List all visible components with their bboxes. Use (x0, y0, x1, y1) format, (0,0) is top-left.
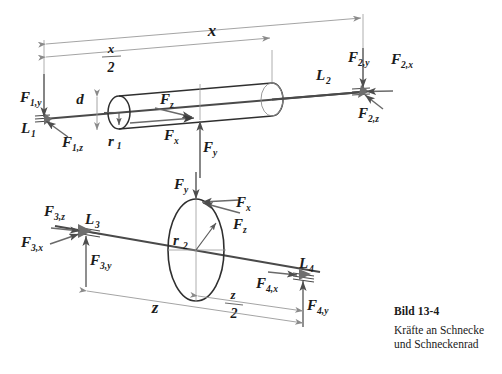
force-F3x: F 3,x (20, 234, 79, 253)
worm-assembly: x x 2 d r 1 (19, 14, 413, 178)
force-label-Fx-wheel: F (235, 194, 246, 210)
force-label-F2y: F (347, 49, 358, 65)
bearing-label-L3-sub: 3 (94, 220, 100, 230)
figure-caption-line2: und Schneckenrad (394, 338, 502, 352)
bearing-label-L1: L (20, 120, 30, 136)
dimension-label-x-total: x (207, 21, 217, 40)
dimension-label-x-half-denominator: 2 (107, 60, 115, 75)
force-label-F2z: F (357, 105, 368, 121)
force-label-F2x-sub: 2,x (400, 60, 413, 70)
dimension-x-half: x 2 (46, 38, 272, 82)
bearing-label-L4: L (298, 255, 308, 271)
force-label-F2x: F (390, 51, 401, 67)
force-label-F2z-sub: 2,z (367, 114, 379, 124)
dimension-label-z-half-numerator: z (229, 287, 236, 302)
force-Fx-worm: F x (130, 118, 194, 146)
bearing-label-L2: L (315, 67, 325, 83)
force-label-Fx-worm: F (163, 127, 174, 143)
radius-label-r1-sub: 1 (117, 141, 122, 151)
force-label-F4x: F (255, 275, 266, 291)
dimension-label-z-total: z (151, 298, 159, 317)
force-Fz-worm: F z (155, 91, 192, 117)
force-F4y: F 4,y (303, 281, 329, 327)
dimension-label-x-half-numerator: x (107, 41, 115, 56)
force-label-F4x-sub: 4,x (265, 284, 278, 294)
force-label-F4y-sub: 4,y (316, 306, 329, 316)
force-Fy-worm: F y (200, 121, 218, 178)
worm-right-stub (272, 92, 363, 100)
bearing-label-L2-sub: 2 (325, 76, 331, 86)
force-label-Fy-wheel: F (173, 176, 184, 192)
bearing-L3: L 3 (78, 211, 100, 238)
radius-label-r2-sub: 2 (182, 241, 188, 251)
force-label-F2y-sub: 2,y (357, 58, 370, 68)
force-Fx-wheel: F x (202, 194, 251, 213)
figure-container: x x 2 d r 1 (0, 0, 502, 374)
force-label-F3x: F (20, 234, 31, 250)
bearing-label-L4-sub: 4 (308, 264, 314, 274)
force-F1y: F 1,y (19, 74, 44, 117)
radius-label-r2: r (173, 232, 179, 248)
force-label-F4y: F (306, 297, 317, 313)
force-label-Fz-worm: F (159, 91, 170, 107)
force-label-F1y-sub: 1,y (30, 98, 42, 108)
dimension-d: d (76, 91, 97, 130)
force-label-F3z-sub: 3,z (53, 212, 65, 222)
force-F4x: F 4,x (255, 272, 297, 294)
radius-label-r1: r (108, 133, 114, 149)
force-label-F1y: F (19, 89, 30, 105)
bearing-L1: L 1 (20, 113, 52, 139)
force-F2x: F 2,x (366, 51, 413, 92)
figure-caption-line1: Kräfte an Schnecke (394, 324, 502, 338)
force-label-Fz-wheel: F (232, 216, 243, 232)
dimension-x-total: x (44, 14, 363, 113)
force-label-F3y: F (89, 252, 100, 268)
force-label-Fz-wheel-sub: z (242, 225, 247, 235)
force-F3y: F 3,y (86, 236, 112, 287)
bearing-label-L1-sub: 1 (31, 129, 36, 139)
force-label-Fy-worm-sub: y (212, 148, 218, 158)
force-label-Fz-worm-sub: z (169, 100, 174, 110)
figure-caption-block: Bild 13-4 Kräfte an Schnecke und Schneck… (394, 305, 502, 351)
force-label-F3y-sub: 3,y (99, 261, 112, 271)
force-F2y: F 2,y (347, 48, 370, 88)
figure-caption-number: Bild 13-4 (394, 305, 502, 317)
force-label-F1z: F (61, 134, 72, 150)
wheel-assembly: r 2 F y F x F z (20, 172, 329, 327)
force-label-Fy-worm: F (202, 139, 213, 155)
bearing-label-L3: L (84, 211, 94, 227)
dimension-z-total: z (87, 291, 303, 323)
force-label-F3z: F (43, 203, 54, 219)
force-label-F1z-sub: 1,z (72, 143, 83, 153)
force-label-F3x-sub: 3,x (30, 243, 43, 253)
dimension-label-d: d (76, 91, 84, 107)
force-F1z: F 1,z (46, 121, 83, 153)
dimension-z-half: z 2 (198, 287, 303, 321)
force-label-Fx-wheel-sub: x (245, 203, 251, 213)
force-label-Fx-worm-sub: x (173, 136, 179, 146)
force-F2z: F 2,z (357, 95, 383, 124)
force-Fy-wheel: F y (173, 172, 196, 199)
force-label-Fy-wheel-sub: y (183, 185, 189, 195)
